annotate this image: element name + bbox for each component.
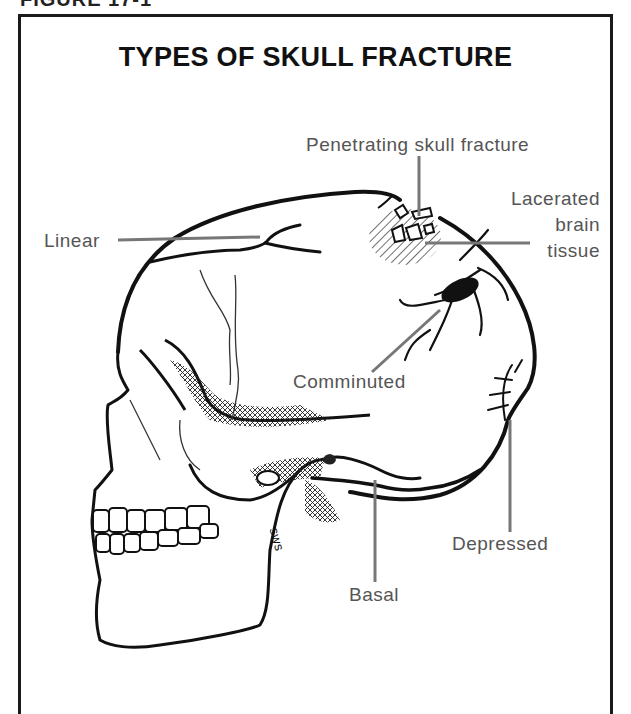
label-comminuted: Comminuted: [293, 371, 406, 393]
teeth: [93, 506, 218, 554]
figure-title: TYPES OF SKULL FRACTURE: [0, 42, 631, 73]
penetrating-fracture: [369, 196, 441, 265]
label-basal: Basal: [349, 584, 399, 606]
label-depressed: Depressed: [452, 533, 548, 555]
label-lacerated-2: brain: [488, 214, 600, 236]
depressed-fracture: [488, 360, 522, 420]
linear-fracture: [150, 225, 320, 262]
label-lacerated-3: tissue: [488, 240, 600, 262]
mastoid-shading: [305, 480, 340, 522]
label-linear: Linear: [44, 230, 100, 252]
ear-canal: [322, 454, 336, 465]
label-lacerated-1: Lacerated: [488, 188, 600, 210]
label-penetrating: Penetrating skull fracture: [306, 134, 529, 156]
